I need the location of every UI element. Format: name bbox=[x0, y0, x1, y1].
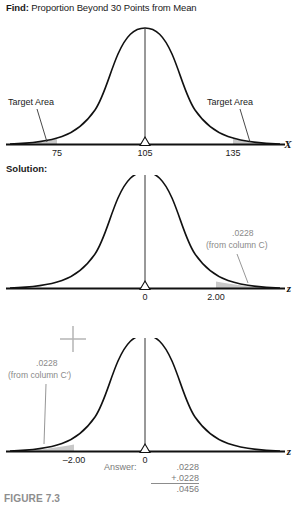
find-statement: Find: Proportion Beyond 30 Points from M… bbox=[6, 2, 197, 13]
leader-line-annotation bbox=[237, 254, 248, 283]
answer-term-2: +.0228 bbox=[151, 473, 199, 484]
tick-label-0: 0 bbox=[142, 292, 147, 302]
panel-lower-tail-z-distribution: –2.00 0 z .0228 (from column C′) bbox=[0, 338, 300, 468]
tick-label-2-00: 2.00 bbox=[207, 292, 225, 302]
panel-raw-score-distribution: 75 105 135 X Target Area Target Area bbox=[0, 14, 300, 159]
mean-triangle-marker bbox=[140, 281, 150, 290]
answer-total: .0456 bbox=[151, 483, 199, 495]
tick-label-105: 105 bbox=[137, 148, 152, 158]
answer-term-1: .0228 bbox=[151, 462, 199, 473]
figure-7-3: Find: Proportion Beyond 30 Points from M… bbox=[0, 0, 300, 515]
area-source-label: (from column C′) bbox=[8, 370, 71, 380]
find-label: Find: bbox=[6, 2, 29, 13]
mean-triangle-marker bbox=[140, 444, 150, 453]
answer-label: Answer: bbox=[104, 462, 137, 472]
tick-label-0: 0 bbox=[142, 455, 147, 465]
tick-label-135: 135 bbox=[225, 148, 240, 158]
leader-line-annotation bbox=[44, 384, 46, 444]
target-area-left-label: Target Area bbox=[8, 97, 54, 107]
z-axis-label: z bbox=[286, 445, 292, 457]
figure-caption: FIGURE 7.3 bbox=[4, 492, 60, 504]
x-axis-label: X bbox=[283, 138, 292, 150]
area-value-label: .0228 bbox=[36, 358, 58, 368]
z-axis-label: z bbox=[286, 282, 292, 294]
area-value-label: .0228 bbox=[232, 228, 254, 238]
area-source-label: (from column C) bbox=[206, 240, 268, 250]
answer-arithmetic: .0228 +.0228 .0456 bbox=[151, 462, 199, 495]
tick-label-75: 75 bbox=[52, 148, 62, 158]
leader-line-left bbox=[37, 109, 47, 142]
leader-line-right bbox=[240, 109, 250, 142]
target-area-right-label: Target Area bbox=[207, 97, 253, 107]
panel-upper-tail-z-distribution: 0 2.00 z .0228 (from column C) bbox=[0, 175, 300, 305]
solution-label: Solution: bbox=[6, 163, 47, 174]
mean-triangle-marker bbox=[140, 137, 150, 146]
find-description: Proportion Beyond 30 Points from Mean bbox=[31, 2, 196, 13]
tick-label-neg-2-00: –2.00 bbox=[63, 455, 86, 465]
